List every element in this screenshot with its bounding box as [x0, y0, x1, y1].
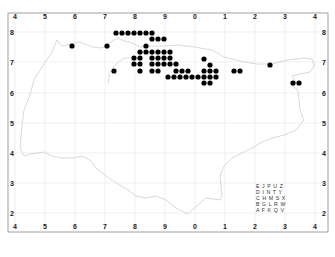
x-label-top: 9 — [163, 13, 167, 20]
y-label-right: 7 — [322, 59, 326, 66]
y-label-right: 4 — [322, 150, 326, 157]
y-label-left: 3 — [10, 180, 14, 187]
record-dot — [267, 62, 272, 67]
record-dot — [104, 43, 109, 48]
y-label-left: 7 — [10, 59, 14, 66]
x-label-bottom: 7 — [103, 223, 107, 230]
x-label-bottom: 4 — [313, 223, 317, 230]
y-label-right: 8 — [322, 29, 326, 36]
record-dot — [213, 68, 218, 73]
record-dot — [207, 74, 212, 79]
record-dot — [207, 80, 212, 85]
x-label-bottom: 3 — [283, 223, 287, 230]
record-dot — [125, 30, 130, 35]
record-dot — [69, 43, 74, 48]
record-dot — [149, 68, 154, 73]
record-dot — [155, 68, 160, 73]
record-dot — [155, 61, 160, 66]
record-dot — [137, 55, 142, 60]
record-dot — [161, 61, 166, 66]
record-dot — [207, 68, 212, 73]
record-dot — [155, 36, 160, 41]
record-dot — [189, 74, 194, 79]
record-dot — [113, 30, 118, 35]
record-dot — [161, 36, 166, 41]
record-dot — [201, 80, 206, 85]
x-label-top: 5 — [43, 13, 47, 20]
y-label-left: 2 — [10, 210, 14, 217]
x-label-bottom: 6 — [73, 223, 77, 230]
x-label-bottom: 5 — [43, 223, 47, 230]
record-dot — [155, 55, 160, 60]
record-dot — [149, 49, 154, 54]
record-dot — [137, 49, 142, 54]
record-dot — [183, 74, 188, 79]
x-label-top: 4 — [13, 13, 17, 20]
record-dot — [195, 74, 200, 79]
record-dot — [173, 68, 178, 73]
record-dot — [143, 30, 148, 35]
record-dot — [131, 55, 136, 60]
x-label-top: 4 — [313, 13, 317, 20]
record-dot — [167, 55, 172, 60]
x-label-top: 7 — [103, 13, 107, 20]
record-dot — [231, 68, 236, 73]
record-dot — [149, 36, 154, 41]
y-label-right: 2 — [322, 210, 326, 217]
y-label-left: 8 — [10, 29, 14, 36]
x-label-bottom: 2 — [253, 223, 257, 230]
record-dot — [185, 68, 190, 73]
record-dot — [161, 49, 166, 54]
record-dot — [179, 68, 184, 73]
record-dot — [290, 80, 295, 85]
x-label-bottom: 1 — [223, 223, 227, 230]
x-label-top: 2 — [253, 13, 257, 20]
record-dot — [213, 74, 218, 79]
key-row: A F K Q V — [256, 207, 284, 213]
y-label-left: 5 — [10, 120, 14, 127]
record-dot — [143, 43, 148, 48]
record-dot — [143, 49, 148, 54]
record-dot — [167, 61, 172, 66]
distribution-map: 445566778899001122334488776655443322 E J… — [0, 0, 335, 257]
record-dot — [111, 68, 116, 73]
x-label-top: 3 — [283, 13, 287, 20]
x-label-bottom: 8 — [133, 223, 137, 230]
record-dot — [171, 74, 176, 79]
x-label-top: 1 — [223, 13, 227, 20]
x-label-bottom: 9 — [163, 223, 167, 230]
record-dot — [201, 68, 206, 73]
y-label-right: 5 — [322, 120, 326, 127]
record-dot — [155, 49, 160, 54]
x-label-top: 0 — [193, 13, 197, 20]
record-dot — [131, 30, 136, 35]
record-dot — [207, 62, 212, 67]
record-dot — [137, 61, 142, 66]
record-dot — [137, 68, 142, 73]
x-label-top: 8 — [133, 13, 137, 20]
record-dot — [149, 55, 154, 60]
y-label-left: 6 — [10, 90, 14, 97]
record-dot — [201, 56, 206, 61]
x-label-bottom: 4 — [13, 223, 17, 230]
record-dot — [119, 30, 124, 35]
y-label-right: 6 — [322, 90, 326, 97]
record-dot — [296, 80, 301, 85]
x-label-bottom: 0 — [193, 223, 197, 230]
record-dot — [237, 68, 242, 73]
tetrad-key: E J P U ZD I N T YC H M S XB G L R WA F … — [256, 183, 286, 213]
record-dot — [173, 61, 178, 66]
y-label-left: 4 — [10, 150, 14, 157]
record-dot — [165, 74, 170, 79]
y-label-right: 3 — [322, 180, 326, 187]
x-label-top: 6 — [73, 13, 77, 20]
record-dot — [131, 61, 136, 66]
record-dot — [161, 55, 166, 60]
record-dot — [137, 30, 142, 35]
record-dot — [201, 74, 206, 79]
record-dot — [149, 30, 154, 35]
record-dot — [177, 74, 182, 79]
record-dot — [167, 49, 172, 54]
record-dot — [149, 61, 154, 66]
